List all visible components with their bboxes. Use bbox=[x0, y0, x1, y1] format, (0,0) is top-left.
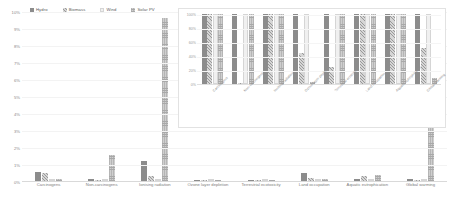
inset-y-axis-tick-label: 100% bbox=[187, 13, 196, 17]
bar[interactable] bbox=[56, 179, 62, 181]
inset-bar[interactable] bbox=[371, 14, 376, 84]
inset-bar[interactable] bbox=[401, 14, 406, 84]
bar[interactable] bbox=[95, 180, 101, 181]
x-axis-tick-label: Aquatic eutrophication bbox=[341, 182, 394, 202]
legend-swatch-icon bbox=[100, 8, 104, 12]
x-axis-tick-label: Ozone layer depletion bbox=[181, 182, 234, 202]
bar[interactable] bbox=[414, 180, 420, 181]
inset-bar[interactable] bbox=[360, 14, 365, 84]
inset-bar[interactable] bbox=[232, 14, 237, 84]
bar[interactable] bbox=[301, 173, 307, 181]
y-axis-tick-label: 8% bbox=[14, 44, 20, 49]
inset-bar[interactable] bbox=[243, 14, 248, 84]
bar[interactable] bbox=[308, 178, 314, 181]
inset-bar[interactable] bbox=[304, 14, 309, 84]
bar[interactable] bbox=[255, 180, 261, 181]
y-axis-tick-label: 1% bbox=[14, 163, 20, 168]
inset-gridline bbox=[197, 43, 441, 44]
gridline bbox=[22, 165, 447, 166]
bar[interactable] bbox=[148, 176, 154, 181]
inset-x-label-cell: Aquatic eutrophication bbox=[380, 87, 411, 125]
inset-x-label-cell: Ozone layer depletion bbox=[289, 87, 320, 125]
inset-bar-group bbox=[228, 15, 259, 84]
bar[interactable] bbox=[375, 175, 381, 181]
inset-y-axis-tick-label: 40% bbox=[189, 55, 196, 59]
inset-bar[interactable] bbox=[207, 14, 212, 84]
bar[interactable] bbox=[208, 179, 214, 181]
x-axis-tick-label: Global warming bbox=[394, 182, 447, 202]
inset-bar[interactable] bbox=[268, 14, 273, 84]
inset-bar[interactable] bbox=[218, 14, 223, 84]
bar[interactable] bbox=[322, 179, 328, 181]
inset-bar[interactable] bbox=[249, 14, 254, 84]
inset-x-label-cell: Non-carcinogens bbox=[228, 87, 259, 125]
bar[interactable] bbox=[361, 176, 367, 181]
bar[interactable] bbox=[155, 179, 161, 181]
inset-gridline bbox=[197, 71, 441, 72]
inset-bar[interactable] bbox=[274, 14, 279, 84]
legend-swatch-icon bbox=[63, 8, 67, 12]
x-axis-labels: CarcinogensNon-carcinogensIonising radia… bbox=[22, 182, 447, 202]
y-axis-tick-label: 5% bbox=[14, 95, 20, 100]
bar[interactable] bbox=[35, 172, 41, 181]
inset-x-label-cell: Terrestrial ecotoxicity bbox=[319, 87, 350, 125]
inset-bar[interactable] bbox=[390, 14, 395, 84]
bar[interactable] bbox=[368, 179, 374, 181]
inset-x-label-cell: Carcinogens bbox=[197, 87, 228, 125]
y-axis-tick-label: 6% bbox=[14, 78, 20, 83]
inset-y-axis-tick-label: 60% bbox=[189, 41, 196, 45]
bar[interactable] bbox=[162, 18, 168, 181]
x-axis-tick-label: Land occupation bbox=[288, 182, 341, 202]
bar[interactable] bbox=[269, 180, 275, 181]
inset-gridline bbox=[197, 57, 441, 58]
bar[interactable] bbox=[354, 179, 360, 181]
inset-bar[interactable] bbox=[335, 14, 340, 84]
inset-bar-group bbox=[197, 15, 228, 84]
inset-gridline bbox=[197, 15, 441, 16]
inset-bar[interactable] bbox=[340, 14, 345, 84]
inset-bar[interactable] bbox=[279, 14, 284, 84]
inset-x-axis-labels: CarcinogensNon-carcinogensIonising radia… bbox=[197, 87, 441, 125]
y-axis-tick-label: 10% bbox=[12, 10, 20, 15]
bar[interactable] bbox=[109, 155, 115, 181]
bar[interactable] bbox=[201, 180, 207, 181]
bar[interactable] bbox=[421, 179, 427, 181]
bar[interactable] bbox=[407, 179, 413, 181]
legend-swatch-icon bbox=[131, 8, 135, 12]
inset-bar[interactable] bbox=[238, 83, 243, 84]
gridline bbox=[22, 131, 447, 132]
x-axis-tick-label: Carcinogens bbox=[22, 182, 75, 202]
inset-bar[interactable] bbox=[396, 14, 401, 84]
y-axis-tick-label: 9% bbox=[14, 27, 20, 32]
bar[interactable] bbox=[42, 173, 48, 181]
bar[interactable] bbox=[215, 180, 221, 181]
y-axis-tick-label: 7% bbox=[14, 61, 20, 66]
inset-y-axis-tick-label: 0% bbox=[191, 83, 196, 87]
bar[interactable] bbox=[102, 179, 108, 181]
impact-share-bar-chart: HydroBiomassWindSolar PV 10%9%8%7%6%5%4%… bbox=[0, 0, 449, 210]
x-axis-tick-label: Non-carcinogens bbox=[75, 182, 128, 202]
x-axis-tick-label: Terrestrial ecotoxicity bbox=[235, 182, 288, 202]
inset-chart: 100%80%60%40%20%0% CarcinogensNon-carcin… bbox=[178, 8, 446, 128]
inset-y-axis-tick-label: 80% bbox=[189, 27, 196, 31]
inset-bar[interactable] bbox=[202, 14, 207, 84]
inset-bar[interactable] bbox=[213, 14, 218, 84]
inset-y-axis-tick-label: 20% bbox=[189, 69, 196, 73]
bar[interactable] bbox=[315, 179, 321, 181]
bar[interactable] bbox=[49, 179, 55, 181]
y-axis-tick-label: 4% bbox=[14, 112, 20, 117]
bar[interactable] bbox=[88, 179, 94, 181]
gridline bbox=[22, 148, 447, 149]
inset-bar[interactable] bbox=[365, 14, 370, 84]
legend-swatch-icon bbox=[30, 8, 34, 12]
bar[interactable] bbox=[248, 180, 254, 181]
x-axis-tick-label: Ionising radiation bbox=[128, 182, 181, 202]
inset-gridline bbox=[197, 29, 441, 30]
bar[interactable] bbox=[194, 180, 200, 181]
inset-x-label-cell: Global warming bbox=[411, 87, 442, 125]
y-axis-tick-label: 0% bbox=[14, 180, 20, 185]
y-axis-labels: 10%9%8%7%6%5%4%3%2%1%0% bbox=[0, 0, 22, 210]
y-axis-tick-label: 3% bbox=[14, 129, 20, 134]
bar[interactable] bbox=[262, 179, 268, 181]
inset-bar[interactable] bbox=[426, 14, 431, 84]
